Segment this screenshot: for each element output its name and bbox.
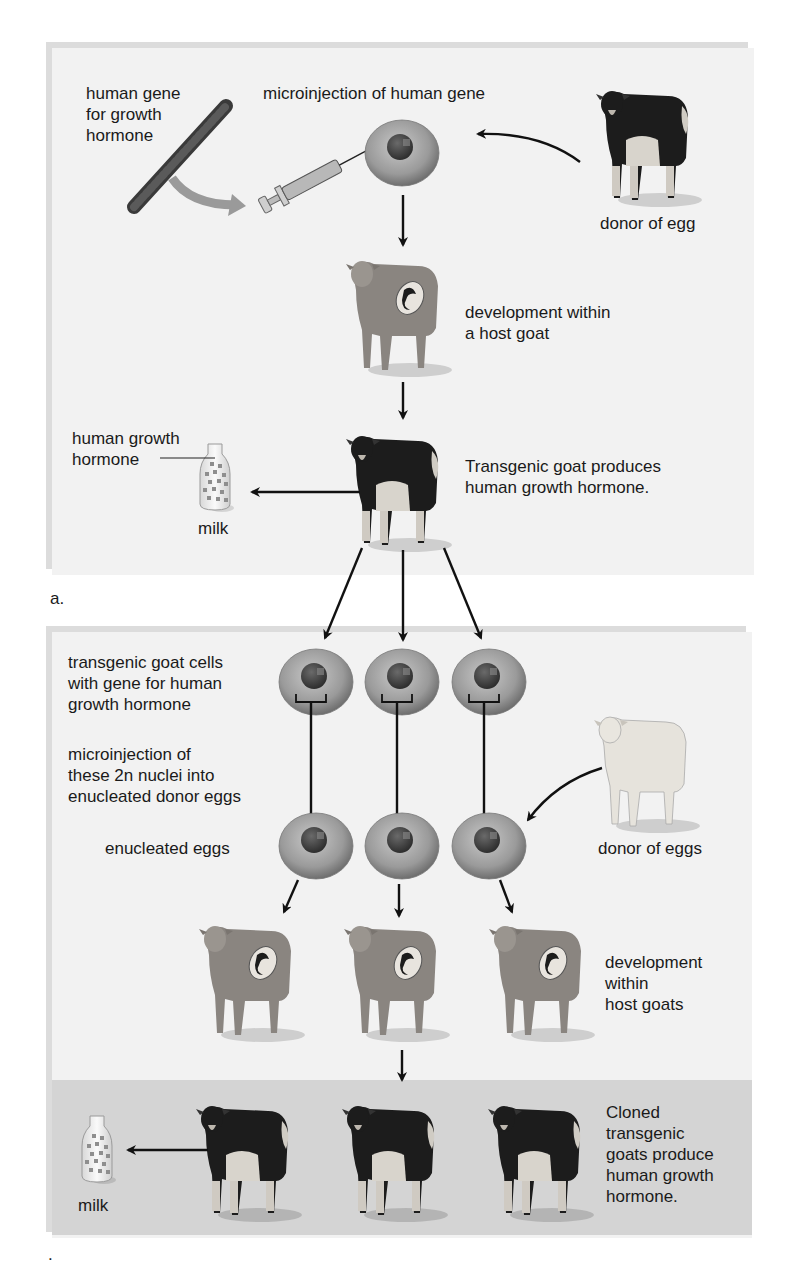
panel-a-label: a. [50, 588, 64, 609]
label-cloned: Cloned transgenic goats produce human gr… [606, 1102, 714, 1207]
enucleated-eggs-row [279, 813, 526, 879]
arrow-icon [444, 548, 481, 638]
label-development-host: development within a host goat [465, 302, 611, 344]
panel-b-label: . [48, 1244, 53, 1265]
label-hgh: human growth hormone [72, 428, 180, 470]
label-milk-a: milk [198, 518, 228, 539]
transgenic-goat-icon [346, 436, 452, 552]
label-transgenic: Transgenic goat produces human growth ho… [465, 456, 661, 498]
diagram-graphics [0, 0, 796, 1265]
milk-bottle-icon [200, 444, 234, 512]
label-donor-eggs: donor of eggs [598, 838, 702, 859]
arrow-icon [325, 548, 362, 638]
transfer-arrow-icon [172, 178, 236, 205]
milk-bottle-icon [82, 1116, 116, 1184]
cloned-goats-row [196, 1106, 594, 1222]
label-microinjection-nuclei: microinjection of these 2n nuclei into e… [68, 744, 241, 807]
label-transgenic-cells: transgenic goat cells with gene for huma… [68, 652, 223, 715]
label-milk-b: milk [78, 1195, 108, 1216]
label-development-hosts: development within host goats [605, 952, 702, 1015]
arrow-icon [478, 134, 580, 162]
arrow-icon [500, 880, 512, 912]
host-goat-icon [346, 261, 452, 377]
donor-goat-white-icon [594, 717, 700, 833]
label-microinjection: microinjection of human gene [263, 83, 485, 104]
label-enucleated-eggs: enucleated eggs [105, 838, 230, 859]
arrow-icon [284, 880, 298, 912]
donor-goat-icon [596, 91, 702, 207]
transgenic-cells-row [279, 649, 526, 715]
label-human-gene: human gene for growth hormone [86, 83, 181, 146]
label-donor-egg: donor of egg [600, 213, 695, 234]
egg-cell-icon [365, 120, 439, 186]
arrow-icon [528, 768, 602, 820]
host-goats-row [199, 926, 595, 1042]
